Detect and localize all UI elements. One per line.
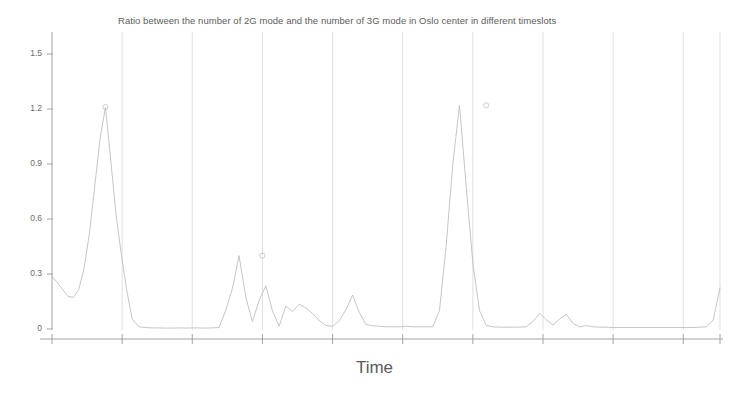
peak-marker-circle [484, 103, 489, 108]
y-tick-label: 1.2 [8, 103, 42, 113]
data-point-markers-group [103, 103, 489, 259]
y-tick-label: 1.5 [8, 48, 42, 58]
y-tick-label: 0 [8, 323, 42, 333]
data-series-line [52, 105, 720, 328]
line-chart-plot [0, 0, 749, 400]
x-axis-label: Time [0, 358, 749, 378]
axes-group [40, 32, 723, 339]
y-tick-label: 0.6 [8, 213, 42, 223]
chart-figure: Ratio between the number of 2G mode and … [0, 0, 749, 400]
y-tick-label: 0.3 [8, 268, 42, 278]
y-tick-label: 0.9 [8, 158, 42, 168]
gridlines-group [122, 32, 720, 330]
